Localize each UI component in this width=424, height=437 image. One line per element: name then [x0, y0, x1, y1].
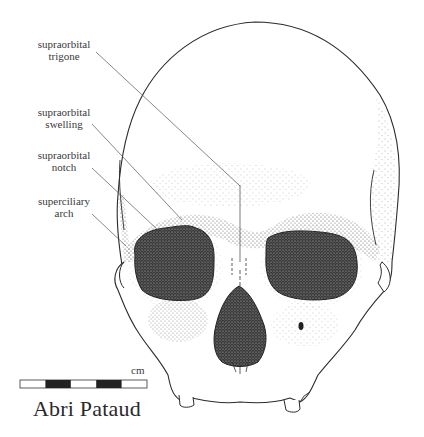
label-line-1: supraorbital [24, 38, 104, 50]
scale-unit-label: cm [131, 364, 144, 376]
label-line-2: swelling [24, 118, 104, 130]
label-line-1: superciliary [24, 195, 104, 207]
tooth-left [179, 395, 194, 407]
label-superciliary-arch: superciliary arch [24, 195, 104, 219]
label-supraorbital-notch: supraorbital notch [24, 149, 104, 173]
label-line-2: notch [24, 161, 104, 173]
label-line-1: supraorbital [24, 106, 104, 118]
label-line-2: trigone [24, 50, 104, 62]
label-supraorbital-trigone: supraorbital trigone [24, 38, 104, 62]
scale-bar [20, 380, 147, 388]
label-line-1: supraorbital [24, 149, 104, 161]
tooth-right [284, 400, 300, 412]
figure-caption: Abri Pataud [33, 396, 141, 422]
skull-illustration-figure: supraorbital trigone supraorbital swelli… [0, 0, 424, 437]
label-line-2: arch [24, 207, 104, 219]
label-supraorbital-swelling: supraorbital swelling [24, 106, 104, 130]
